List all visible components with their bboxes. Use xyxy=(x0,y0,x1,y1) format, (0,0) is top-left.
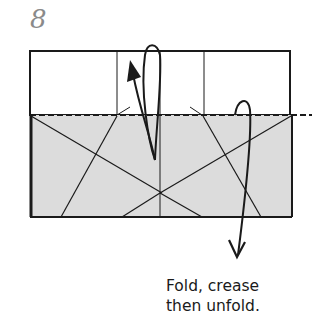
instruction-line-1: Fold, crease xyxy=(166,276,316,296)
instruction-text: Fold, crease then unfold. xyxy=(166,276,316,316)
shaded-region xyxy=(30,115,292,217)
instruction-line-2: then unfold. xyxy=(166,296,316,316)
